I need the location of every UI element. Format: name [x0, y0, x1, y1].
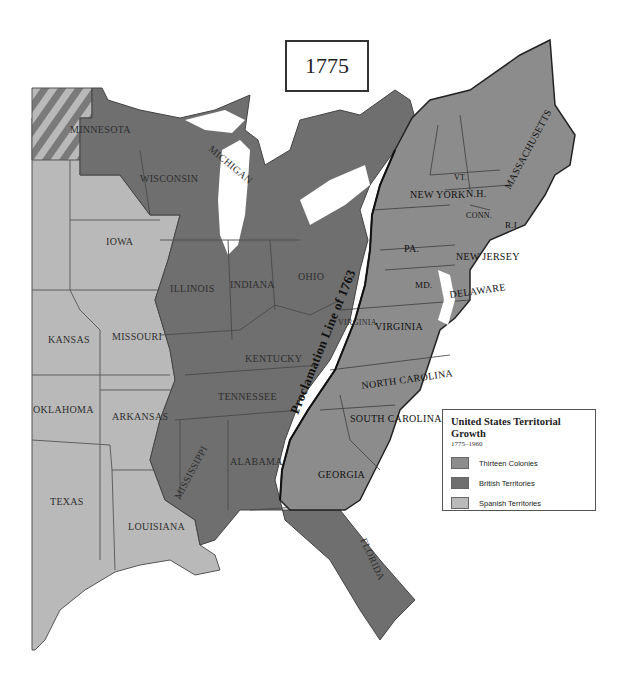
svg-text:WISCONSIN: WISCONSIN — [140, 173, 198, 184]
svg-text:LOUISIANA: LOUISIANA — [128, 521, 186, 532]
territorial-map: MINNESOTA IOWA KANSAS MISSOURI OKLAHOMA … — [0, 0, 623, 673]
svg-text:MD.: MD. — [415, 280, 433, 290]
svg-text:KENTUCKY: KENTUCKY — [245, 353, 302, 364]
svg-text:R.I.: R.I. — [505, 220, 520, 230]
swatch-spanish-territories — [451, 497, 469, 509]
swatch-british-territories — [451, 477, 469, 489]
svg-text:TEXAS: TEXAS — [50, 496, 84, 507]
svg-text:N.H.: N.H. — [466, 188, 487, 199]
svg-text:IOWA: IOWA — [106, 236, 134, 247]
svg-text:MISSOURI: MISSOURI — [112, 331, 162, 342]
svg-text:VIRGINIA: VIRGINIA — [375, 321, 423, 332]
svg-text:KANSAS: KANSAS — [48, 334, 90, 345]
svg-text:CONN.: CONN. — [466, 211, 492, 220]
svg-text:VT.: VT. — [454, 173, 467, 182]
svg-text:NEW YORK: NEW YORK — [410, 189, 466, 200]
svg-text:PA.: PA. — [404, 243, 419, 254]
swatch-thirteen-colonies — [451, 457, 469, 469]
svg-text:TENNESSEE: TENNESSEE — [218, 391, 277, 402]
svg-text:ARKANSAS: ARKANSAS — [112, 411, 168, 422]
legend-item-spanish-territories: Spanish Territories — [451, 493, 587, 513]
legend-item-british-territories: British Territories — [451, 473, 587, 493]
svg-text:ALABAMA: ALABAMA — [230, 456, 283, 467]
svg-text:OHIO: OHIO — [298, 271, 324, 282]
svg-text:ILLINOIS: ILLINOIS — [170, 283, 215, 294]
legend: United States Territorial Growth 1775–19… — [442, 409, 596, 511]
svg-text:GEORGIA: GEORGIA — [318, 469, 366, 480]
svg-text:SOUTH CAROLINA: SOUTH CAROLINA — [350, 413, 442, 424]
legend-subtitle: 1775–1960 — [451, 440, 587, 448]
year-label: 1775 — [285, 40, 369, 92]
legend-item-thirteen-colonies: Thirteen Colonies — [451, 453, 587, 473]
svg-text:VIRGINIA: VIRGINIA — [338, 318, 377, 327]
svg-text:MINNESOTA: MINNESOTA — [70, 124, 131, 135]
svg-text:NEW JERSEY: NEW JERSEY — [456, 251, 520, 262]
svg-text:INDIANA: INDIANA — [230, 279, 275, 290]
legend-title: United States Territorial Growth — [451, 416, 587, 440]
svg-text:OKLAHOMA: OKLAHOMA — [33, 404, 94, 415]
